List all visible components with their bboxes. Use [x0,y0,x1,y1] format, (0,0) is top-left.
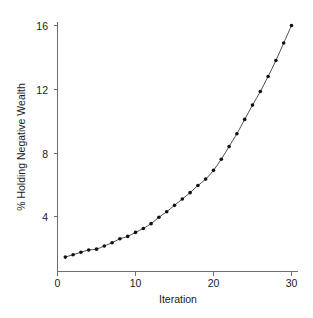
data-point [290,24,294,28]
data-point [227,145,231,149]
data-point [282,41,286,45]
data-point [157,216,161,220]
data-point [134,231,138,235]
data-point [173,204,177,208]
data-point [64,255,68,259]
data-point [243,118,247,122]
data-point-group [64,24,294,259]
x-tick-label-30: 30 [286,277,298,289]
data-point [79,251,83,255]
y-axis-ticks [54,26,58,217]
data-point [118,237,122,241]
data-point [251,103,255,107]
y-tick-label-8: 8 [42,148,48,160]
data-point [188,191,192,195]
data-point [149,222,153,226]
y-axis-title: % Holding Negative Wealth [15,83,27,211]
data-point [165,210,169,214]
data-point [71,253,75,257]
x-tick-label-0: 0 [55,277,61,289]
data-point [235,132,239,136]
data-point [87,248,91,252]
data-point [110,241,114,245]
y-tick-label-16: 16 [36,20,48,32]
y-tick-label-4: 4 [42,211,48,223]
x-axis-ticks [58,272,292,276]
chart-figure: 16 12 8 4 0 10 20 30 Iteration % Holding… [0,0,313,318]
data-line-series [65,26,291,258]
data-point [220,157,224,161]
data-point [196,184,200,188]
x-tick-label-10: 10 [130,277,142,289]
data-point [181,197,185,201]
data-point [212,169,216,173]
chart-plot-area: 16 12 8 4 0 10 20 30 Iteration % Holding… [0,0,313,318]
data-point [126,235,130,239]
x-tick-label-20: 20 [208,277,220,289]
x-axis-title: Iteration [159,293,197,305]
data-point [103,244,107,248]
data-point [204,177,208,181]
y-tick-label-12: 12 [36,84,48,96]
data-point [95,247,99,251]
data-point [266,75,270,79]
data-point [142,227,146,231]
data-point [259,90,263,94]
data-point [274,59,278,63]
